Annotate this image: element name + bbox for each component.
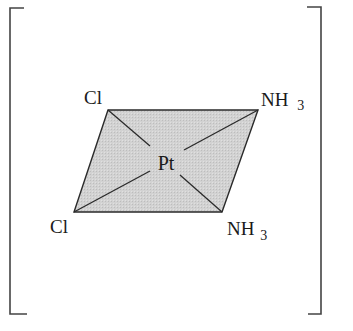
ligand-bottom-right-formula: NH (227, 218, 255, 239)
ligand-top-right-formula: NH (261, 89, 289, 110)
ligand-label-bottom-left: Cl (50, 216, 68, 237)
ligand-label-bottom-right: NH 3 (227, 218, 267, 243)
ligand-label-top-right: NH 3 (261, 89, 304, 113)
diagram-canvas: Pt Cl NH 3 Cl NH 3 (0, 0, 353, 331)
ligand-top-right-subscript: 3 (297, 98, 304, 113)
ligand-label-top-left: Cl (84, 87, 102, 108)
central-atom-label: Pt (158, 152, 175, 174)
ligand-bottom-right-subscript: 3 (260, 228, 267, 243)
left-bracket (10, 8, 27, 314)
right-bracket (307, 7, 321, 314)
